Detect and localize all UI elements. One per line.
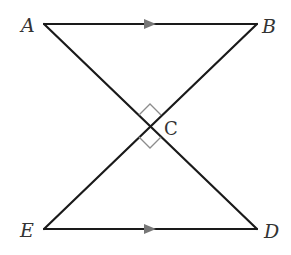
right-angle-mark-top: [139, 104, 161, 115]
label-e: E: [19, 219, 34, 241]
label-c: C: [164, 118, 178, 139]
parallel-arrow-icon-ab: [144, 19, 156, 29]
right-angle-mark-bottom: [139, 137, 161, 148]
label-a: A: [19, 14, 35, 36]
geometry-diagram: A B C E D: [0, 0, 291, 255]
label-b: B: [261, 15, 276, 37]
label-d: D: [263, 220, 279, 242]
parallel-arrow-icon-ed: [144, 224, 156, 234]
